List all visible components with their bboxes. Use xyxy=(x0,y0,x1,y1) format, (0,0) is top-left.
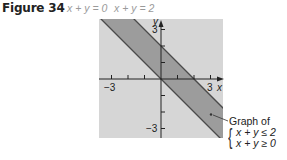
x-axis-name: x xyxy=(216,82,223,93)
x-tick-label-3: 3 xyxy=(207,82,213,93)
y-tick-label-neg3: −3 xyxy=(146,123,158,134)
inequality-2: x + y ≥ 0 xyxy=(236,138,276,149)
x-tick-label-neg3: −3 xyxy=(104,82,116,93)
inequality-system: { x + y ≤ 2 x + y ≥ 0 xyxy=(229,127,276,149)
y-axis-name: y xyxy=(152,16,159,27)
graph-annotation: Graph of { x + y ≤ 2 x + y ≥ 0 xyxy=(229,116,276,149)
annotation-pointer-dot xyxy=(210,113,212,115)
brace-icon: { xyxy=(228,126,232,148)
